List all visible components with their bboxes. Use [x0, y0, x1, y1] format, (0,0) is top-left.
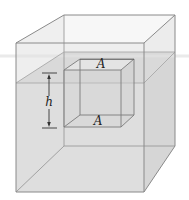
bottom-face-area-label: A: [94, 115, 103, 127]
diagram-canvas: [0, 0, 189, 200]
submerged-cube-diagram: A A h: [0, 0, 189, 200]
height-label: h: [45, 96, 53, 108]
top-face-area-label: A: [97, 58, 106, 70]
cube-front-face: [64, 70, 121, 127]
